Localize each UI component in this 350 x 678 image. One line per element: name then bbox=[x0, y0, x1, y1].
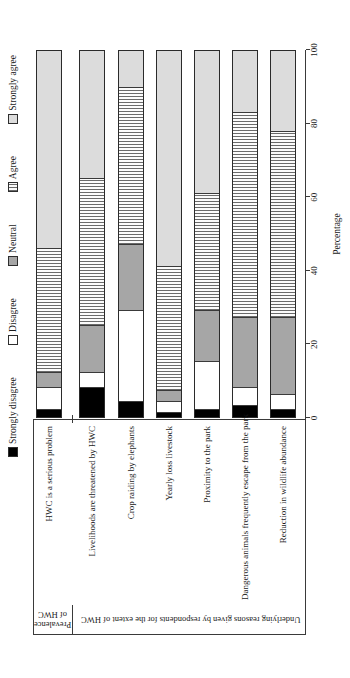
bar-segment bbox=[157, 391, 181, 402]
bar-segment bbox=[119, 88, 143, 245]
group-label-prevalence: Prevalence of HWC bbox=[34, 610, 71, 629]
bar-segment bbox=[157, 51, 181, 267]
legend-swatch-icon bbox=[8, 335, 18, 345]
group-column-left-line bbox=[33, 634, 306, 635]
bar-segment bbox=[233, 318, 257, 388]
x-axis-tick-label: 80 bbox=[309, 109, 319, 139]
bar-segment bbox=[119, 311, 143, 403]
bar-segment bbox=[80, 373, 104, 388]
group-separator-line bbox=[72, 605, 73, 635]
bar-segment bbox=[271, 51, 295, 132]
rotated-figure-page: Strongly disagreeDisagreeNeutralAgreeStr… bbox=[0, 0, 350, 678]
legend-swatch-icon bbox=[8, 182, 18, 192]
bar-segment bbox=[119, 51, 143, 88]
label-area-top-line bbox=[33, 419, 34, 635]
bar-segment bbox=[157, 413, 181, 417]
category-label: Dangerous animals frequently escape from… bbox=[240, 426, 251, 600]
bar-segment bbox=[271, 410, 295, 417]
bar-row bbox=[36, 50, 62, 418]
bar-segment bbox=[195, 194, 219, 311]
bar-segment bbox=[157, 267, 181, 391]
bar-row bbox=[232, 50, 258, 418]
category-label: Yearly loss livestock bbox=[164, 426, 175, 600]
x-axis-tick-label: 20 bbox=[309, 329, 319, 359]
category-label: Proximity to the park bbox=[202, 426, 213, 600]
bar-row bbox=[194, 50, 220, 418]
group-label-underlying: Underlying reasons given by respondents … bbox=[81, 615, 300, 625]
x-axis-tick-label: 100 bbox=[309, 35, 319, 65]
legend-item: Strongly agree bbox=[8, 55, 18, 124]
legend-item: Neutral bbox=[8, 224, 18, 266]
bar-segment bbox=[233, 51, 257, 113]
stacked-bar-chart: Strongly disagreeDisagreeNeutralAgreeStr… bbox=[0, 0, 350, 678]
legend-label: Neutral bbox=[8, 224, 18, 253]
bar-row bbox=[118, 50, 144, 418]
bar-segment bbox=[37, 249, 61, 373]
bar-segment bbox=[37, 373, 61, 388]
bar-row bbox=[156, 50, 182, 418]
category-label: Crop raiding by elephants bbox=[126, 426, 137, 600]
bar-segment bbox=[195, 410, 219, 417]
category-label: Reduction in wildlife abundance bbox=[278, 426, 289, 600]
x-axis-tick-label: 0 bbox=[309, 403, 319, 433]
group-label-underlying-cell: Underlying reasons given by respondents … bbox=[77, 605, 305, 634]
bar-segment bbox=[233, 388, 257, 406]
bar-segment bbox=[37, 410, 61, 417]
bar-segment bbox=[233, 113, 257, 318]
legend-label: Agree bbox=[8, 156, 18, 179]
bar-segment bbox=[37, 388, 61, 410]
bar-segment bbox=[37, 51, 61, 249]
bar-row bbox=[270, 50, 296, 418]
legend-item: Agree bbox=[8, 156, 18, 192]
category-axis-line bbox=[33, 419, 306, 420]
bar-segment bbox=[271, 318, 295, 395]
bar-segment bbox=[80, 326, 104, 374]
group-label-prevalence-cell: Prevalence of HWC bbox=[33, 605, 72, 634]
bar-segment bbox=[271, 132, 295, 319]
group-label-prevalence-line1: Prevalence bbox=[34, 620, 71, 630]
x-axis-title: Percentage bbox=[332, 50, 342, 418]
legend-item: Disagree bbox=[8, 298, 18, 345]
x-axis-tick-label: 60 bbox=[309, 182, 319, 212]
category-label: HWC is a serious problem bbox=[44, 426, 55, 600]
bar-segment bbox=[80, 388, 104, 417]
legend-swatch-icon bbox=[8, 447, 18, 457]
category-label: Livelihoods are threatened by HWC bbox=[87, 426, 98, 600]
group-label-prevalence-line2: of HWC bbox=[38, 610, 67, 620]
bar-segment bbox=[195, 311, 219, 362]
legend-label: Disagree bbox=[8, 298, 18, 332]
legend-label: Strongly disagree bbox=[8, 377, 18, 444]
bar-segment bbox=[157, 402, 181, 413]
bar-segment bbox=[80, 51, 104, 179]
bar-segment bbox=[271, 395, 295, 410]
bar-segment bbox=[119, 245, 143, 311]
legend-label: Strongly agree bbox=[8, 55, 18, 111]
bar-segment bbox=[195, 362, 219, 410]
legend-item: Strongly disagree bbox=[8, 377, 18, 457]
legend-swatch-icon bbox=[8, 114, 18, 124]
bar-segment bbox=[119, 402, 143, 417]
group-separator-tick bbox=[72, 415, 73, 423]
x-axis-tick-label: 40 bbox=[309, 256, 319, 286]
bar-row bbox=[79, 50, 105, 418]
legend-swatch-icon bbox=[8, 256, 18, 266]
bar-segment bbox=[195, 51, 219, 194]
bar-segment bbox=[80, 179, 104, 325]
legend: Strongly disagreeDisagreeNeutralAgreeStr… bbox=[6, 55, 20, 457]
